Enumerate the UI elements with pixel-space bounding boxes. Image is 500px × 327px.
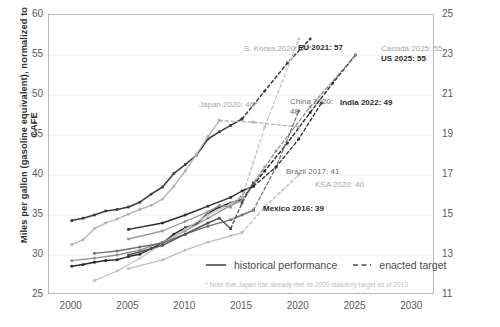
- x-tick-2020: 2020: [275, 300, 321, 311]
- x-tick-2015: 2015: [218, 300, 264, 311]
- y-tick-right-19: 19: [442, 128, 468, 139]
- annotation-canada: Canada 2025: 55: [381, 44, 442, 54]
- x-tick-2025: 2025: [332, 300, 378, 311]
- legend-label-historical: historical performance: [234, 259, 337, 271]
- y-tick-left-35: 35: [17, 208, 43, 219]
- annotation-india: India 2022: 49: [340, 98, 392, 108]
- annotation-japan: Japan 2020: 46*: [199, 100, 257, 110]
- legend-label-target: enacted target: [379, 259, 446, 271]
- y-tick-left-30: 30: [17, 248, 43, 259]
- y-tick-right-23: 23: [442, 48, 468, 59]
- y-tick-left-45: 45: [17, 128, 43, 139]
- y-tick-left-50: 50: [17, 88, 43, 99]
- x-tick-2030: 2030: [388, 300, 434, 311]
- series-lines: [49, 15, 434, 294]
- annotation-eu: EU 2021: 57: [298, 43, 343, 53]
- x-tick-2010: 2010: [161, 300, 207, 311]
- y-tick-right-15: 15: [442, 208, 468, 219]
- y-tick-right-25: 25: [442, 8, 468, 19]
- y-tick-left-60: 60: [17, 8, 43, 19]
- legend-solid-swatch: [205, 261, 227, 269]
- y-tick-left-25: 25: [17, 288, 43, 299]
- chart-legend: historical performance enacted target: [205, 259, 446, 271]
- chart-figure: Miles per gallon (gasoline equivalent), …: [0, 0, 500, 327]
- x-tick-2005: 2005: [104, 300, 150, 311]
- annotation-mexico: Mexico 2016: 39: [263, 204, 324, 214]
- y-tick-left-40: 40: [17, 168, 43, 179]
- annotation-us: US 2025: 55: [381, 54, 426, 64]
- legend-dashed-swatch: [352, 261, 372, 269]
- x-tick-2000: 2000: [48, 300, 94, 311]
- annotation-china: China 2020: 48: [290, 97, 333, 116]
- plot-area: [48, 14, 434, 294]
- y-tick-right-17: 17: [442, 168, 468, 179]
- chart-footnote: * Note that Japan has already met its 20…: [205, 281, 408, 288]
- y-tick-right-21: 21: [442, 88, 468, 99]
- y-tick-right-13: 13: [442, 248, 468, 259]
- annotation-brazil: Brazil 2017: 41: [286, 167, 339, 177]
- annotation-ksa: KSA 2020: 40: [315, 180, 364, 190]
- y-tick-left-55: 55: [17, 48, 43, 59]
- y-tick-right-11: 11: [442, 288, 468, 299]
